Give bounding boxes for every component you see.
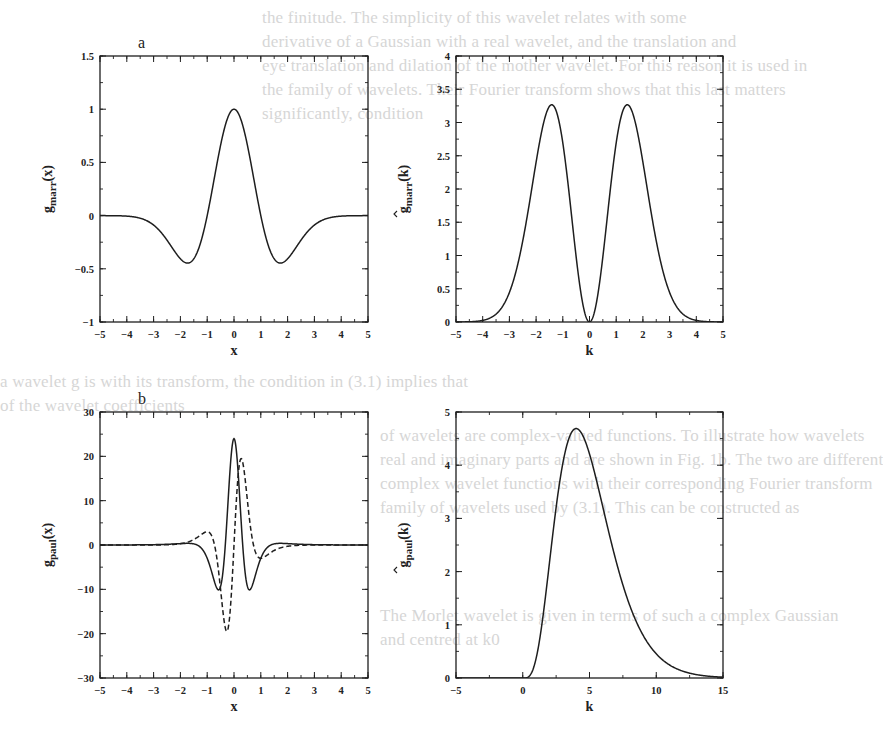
x-tick-label: −1 (557, 329, 568, 340)
y-tick-label: 0.5 (437, 284, 450, 295)
x-tick-label: −5 (450, 685, 461, 696)
y-tick-label: 4 (445, 460, 451, 471)
x-tick-label: 0 (587, 329, 592, 340)
x-tick-label: 4 (339, 685, 345, 696)
x-axis-label: x (231, 343, 238, 358)
x-tick-label: 15 (718, 685, 729, 696)
panel-letter: b (138, 390, 146, 407)
x-tick-label: −2 (175, 685, 186, 696)
x-tick-label: 5 (365, 329, 370, 340)
y-tick-label: 1 (445, 620, 450, 631)
y-tick-label: 4 (445, 51, 451, 62)
x-axis-label: k (586, 343, 594, 358)
panel-letter: a (138, 34, 145, 51)
y-tick-label: 0 (445, 673, 450, 684)
x-tick-label: 10 (651, 685, 662, 696)
x-tick-label: 5 (720, 329, 725, 340)
x-axis-label: x (231, 699, 238, 714)
x-tick-label: −5 (94, 685, 105, 696)
hat-accent-icon (394, 567, 397, 573)
y-tick-label: −30 (78, 673, 94, 684)
y-tick-label: 2.5 (437, 151, 450, 162)
x-tick-label: 5 (587, 685, 592, 696)
x-tick-label: −2 (175, 329, 186, 340)
y-tick-label: 3 (445, 118, 450, 129)
x-tick-label: 0 (231, 685, 236, 696)
y-tick-label: 30 (84, 407, 95, 418)
series-line-real (456, 105, 723, 322)
y-axis-label: gmarr(k) (394, 164, 414, 217)
series-line-real (456, 429, 723, 678)
y-tick-label: 20 (84, 451, 95, 462)
y-axis-label-text: gmarr(x) (40, 165, 58, 213)
y-axis-label: gmarr(x) (40, 165, 58, 213)
y-tick-label: 0.5 (81, 157, 94, 168)
y-tick-label: 1 (89, 104, 94, 115)
y-tick-label: 0 (89, 211, 94, 222)
y-axis-label: gpaul(x) (40, 523, 58, 567)
x-tick-label: 3 (312, 685, 317, 696)
y-tick-label: 0 (445, 317, 450, 328)
chart-panel-a-left: −5−4−3−2−1012345−1−0.500.511.5xgmarr(x)a (40, 34, 371, 358)
chart-panel-b-right: −5051015012345kgpaul(k) (394, 407, 728, 714)
y-tick-label: 3.5 (437, 84, 450, 95)
y-tick-label: 2 (445, 184, 450, 195)
y-tick-label: 3 (445, 513, 450, 524)
x-tick-label: 1 (258, 329, 263, 340)
series-line-imaginary (100, 459, 368, 632)
y-axis-label-text: gpaul(x) (40, 523, 58, 567)
x-tick-label: 4 (694, 329, 700, 340)
x-tick-label: −4 (121, 685, 133, 696)
x-tick-label: −3 (504, 329, 515, 340)
x-tick-label: 1 (258, 685, 263, 696)
y-axis-label-text: gmarr(k) (396, 164, 414, 213)
x-tick-label: 3 (667, 329, 672, 340)
x-tick-label: 3 (312, 329, 317, 340)
x-tick-label: −2 (530, 329, 541, 340)
x-tick-label: 2 (285, 329, 290, 340)
plot-frame (100, 56, 368, 322)
y-tick-label: 10 (84, 496, 95, 507)
y-tick-label: 2 (445, 567, 450, 578)
x-tick-label: −3 (148, 685, 159, 696)
series-line-real (100, 439, 368, 590)
x-tick-label: 2 (640, 329, 645, 340)
x-tick-label: −4 (121, 329, 133, 340)
x-tick-label: 4 (339, 329, 345, 340)
y-tick-label: 1.5 (81, 51, 94, 62)
y-tick-label: 1 (445, 251, 450, 262)
x-tick-label: 2 (285, 685, 290, 696)
x-tick-label: 5 (365, 685, 370, 696)
y-axis-label-text: gpaul(k) (396, 522, 414, 567)
y-tick-label: 1.5 (437, 217, 450, 228)
x-tick-label: 0 (520, 685, 525, 696)
x-tick-label: 1 (614, 329, 619, 340)
y-tick-label: 0 (89, 540, 94, 551)
y-tick-label: −10 (78, 584, 94, 595)
y-tick-label: −0.5 (75, 264, 94, 275)
x-axis-label: k (586, 699, 594, 714)
x-tick-label: −1 (202, 685, 213, 696)
plot-frame (456, 56, 723, 322)
series-line-real (100, 109, 368, 263)
x-tick-label: −5 (450, 329, 461, 340)
chart-panel-b-left: −5−4−3−2−1012345−30−20−100102030xgpaul(x… (40, 390, 371, 714)
x-tick-label: −3 (148, 329, 159, 340)
y-axis-label: gpaul(k) (394, 522, 414, 573)
x-tick-label: 0 (231, 329, 236, 340)
y-tick-label: −20 (78, 629, 94, 640)
y-tick-label: −1 (83, 317, 94, 328)
x-tick-label: −5 (94, 329, 105, 340)
x-tick-label: −4 (477, 329, 489, 340)
y-tick-label: 5 (445, 407, 450, 418)
chart-panel-a-right: −5−4−3−2−101234500.511.522.533.54kgmarr(… (394, 51, 726, 358)
x-tick-label: −1 (202, 329, 213, 340)
